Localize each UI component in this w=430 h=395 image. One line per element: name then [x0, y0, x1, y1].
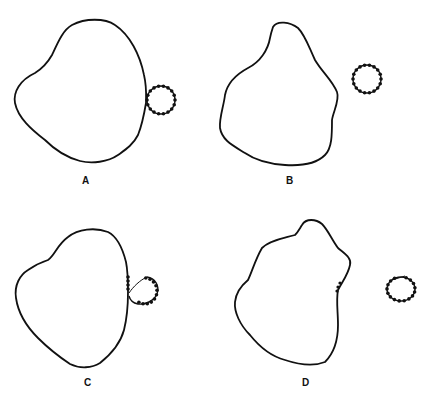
panel-label-c: C	[84, 377, 92, 388]
bead	[389, 279, 393, 283]
bead	[150, 300, 154, 304]
bead	[368, 63, 372, 67]
diagram-canvas	[0, 0, 430, 395]
bead	[335, 289, 338, 292]
bead	[146, 103, 150, 107]
bead	[126, 287, 130, 291]
bead	[154, 284, 158, 288]
cell-outline-d	[235, 220, 350, 364]
bead	[412, 282, 416, 286]
bead	[145, 98, 149, 102]
bead	[152, 110, 156, 114]
bead	[379, 77, 383, 81]
bead	[385, 287, 389, 291]
bead	[126, 283, 130, 287]
bead	[166, 86, 170, 90]
bead	[146, 302, 150, 306]
bead	[152, 86, 156, 90]
bead	[386, 291, 390, 295]
bead	[352, 72, 356, 76]
bead	[141, 302, 145, 306]
bead	[378, 82, 382, 86]
bead	[336, 285, 339, 288]
panel-label-b: B	[286, 175, 294, 186]
bead	[402, 299, 406, 303]
bead	[372, 65, 376, 69]
bead	[166, 110, 170, 114]
bead	[411, 294, 415, 298]
bead	[368, 91, 372, 95]
bead	[162, 84, 166, 88]
beads-b	[351, 63, 383, 94]
bead	[155, 288, 159, 292]
bead	[170, 107, 174, 111]
bead	[355, 86, 359, 90]
bead	[126, 279, 130, 283]
bead	[389, 295, 393, 299]
bead	[149, 89, 153, 93]
panel-c	[16, 229, 159, 367]
bead	[363, 91, 367, 95]
bead	[157, 84, 161, 88]
bead	[153, 297, 157, 301]
bead	[413, 290, 417, 294]
beads-a	[145, 84, 177, 115]
cell-outline-c	[16, 229, 128, 367]
bead	[152, 280, 156, 284]
panel-b	[220, 23, 383, 166]
bead	[355, 68, 359, 72]
bead	[172, 93, 176, 97]
bead	[149, 107, 153, 111]
bead	[376, 86, 380, 90]
bead	[162, 112, 166, 116]
loop-neck-c	[129, 277, 147, 293]
bead	[155, 293, 159, 297]
beads-d	[335, 276, 416, 303]
bead	[170, 89, 174, 93]
bead	[137, 300, 141, 304]
panel-label-d: D	[302, 377, 310, 388]
panel-label-a: A	[82, 175, 90, 186]
bead	[126, 275, 130, 279]
bead	[404, 276, 408, 280]
bead	[358, 89, 362, 93]
bead	[157, 112, 161, 116]
panel-d	[235, 220, 417, 364]
bead	[397, 299, 401, 303]
bead	[393, 298, 397, 302]
cell-outline-b	[220, 23, 338, 166]
bead	[363, 63, 367, 67]
bead	[413, 286, 417, 290]
bead	[352, 82, 356, 86]
bead	[146, 93, 150, 97]
bead	[173, 98, 177, 102]
bead	[338, 281, 341, 284]
bead	[372, 89, 376, 93]
bead	[393, 277, 397, 281]
bead	[407, 297, 411, 301]
cell-outline-a	[15, 20, 146, 163]
bead	[376, 68, 380, 72]
bead	[172, 103, 176, 107]
bead	[378, 72, 382, 76]
bead	[351, 77, 355, 81]
bead	[409, 278, 413, 282]
bead	[386, 283, 390, 287]
bead	[148, 277, 152, 281]
bead	[358, 65, 362, 69]
bead	[144, 276, 148, 280]
panel-a	[15, 20, 177, 163]
